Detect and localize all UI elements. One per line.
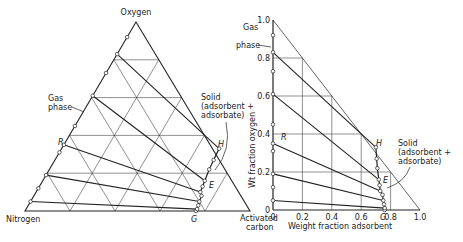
left-point-H: H — [218, 140, 224, 149]
solid-phase-point — [198, 200, 202, 204]
gas-phase-point — [271, 123, 275, 127]
solid-phase-point — [376, 166, 380, 170]
solid-phase-point — [375, 157, 379, 161]
grid-line-carbon — [205, 173, 227, 211]
gas-phase-point — [44, 173, 48, 177]
tie-line — [273, 52, 376, 147]
gas-phase-point — [271, 51, 275, 55]
solid-phase-point — [381, 193, 385, 197]
y-tick-label: 1.0 — [257, 16, 270, 25]
label-activated: Activated — [240, 214, 278, 223]
tie-line — [273, 201, 385, 209]
label-nitrogen: Nitrogen — [6, 215, 40, 224]
gas-phase-point — [37, 187, 41, 191]
right-solid-label-1: Solid — [398, 139, 418, 148]
y-tick-label: 0.8 — [257, 54, 270, 63]
gas-phase-point — [58, 151, 62, 155]
grid-line-carbon — [115, 98, 182, 211]
y-tick-label: 0.4 — [257, 130, 270, 139]
left-point-G: G — [191, 215, 197, 224]
right-point-R: R — [281, 133, 287, 142]
right-point-E: E — [383, 176, 389, 185]
solid-phase-point — [383, 206, 387, 210]
solid-phase-point — [199, 190, 203, 194]
gas-phase-point — [104, 71, 108, 75]
gas-phase-point — [115, 52, 119, 56]
y-axis-label: Wt fraction oxygen — [248, 112, 257, 188]
x-tick-label: 1.0 — [414, 213, 427, 222]
left-solid-label-3: adsorbate) — [201, 111, 245, 120]
gas-phase-point — [29, 200, 33, 204]
label-oxygen: Oxygen — [121, 8, 152, 17]
right-gas-label-1: Gas — [243, 23, 258, 32]
left-solid-label-2: (adsorbent + — [201, 102, 254, 111]
right-gas-label-2: phase — [236, 41, 260, 50]
y-tick-label: 0.2 — [257, 168, 270, 177]
gas-phase-point — [73, 124, 77, 128]
gas-phase-point — [271, 199, 275, 203]
figure: 00.20.40.60.81.000.20.40.60.81.0 Oxygen … — [0, 0, 463, 242]
gas-phase-point — [125, 35, 129, 39]
solid-phase-point — [201, 185, 205, 189]
gas-phase-point — [271, 142, 275, 146]
gas-phase-point — [271, 172, 275, 176]
xy-chart: 00.20.40.60.81.000.20.40.60.81.0 — [257, 16, 426, 222]
gas-phase-point — [271, 149, 275, 153]
solid-phase-point — [195, 207, 199, 211]
tie-line — [31, 202, 198, 210]
gas-phase-point — [271, 185, 275, 189]
left-solid-label-1: Solid — [201, 93, 221, 102]
left-gas-label-1: Gas — [48, 94, 63, 103]
gas-phase-point — [271, 70, 275, 74]
solid-phase-point — [381, 199, 385, 203]
right-solid-label-2: (adsorbent + — [398, 148, 451, 157]
gas-phase-point — [271, 92, 275, 96]
left-gas-label-2: phase — [48, 103, 72, 112]
solid-phase-point — [378, 184, 382, 188]
gas-phase-arrow — [72, 107, 84, 112]
tie-line — [64, 145, 201, 192]
diagonal-boundary — [273, 20, 420, 210]
right-point-H: H — [376, 139, 382, 148]
solid-phase-point — [203, 179, 207, 183]
x-axis-label: Weight fraction adsorbent — [288, 222, 392, 231]
left-point-E: E — [209, 181, 215, 190]
x-tick-label: 0.2 — [296, 213, 309, 222]
left-point-R: R — [58, 138, 64, 147]
tie-line — [273, 174, 383, 201]
gas-phase-point — [271, 33, 275, 37]
solid-phase-point — [212, 158, 216, 162]
x-tick-label: 0.6 — [355, 213, 368, 222]
solid-phase-point — [379, 189, 383, 193]
solid-phase-point — [382, 203, 386, 207]
solid-phase-point — [377, 178, 381, 182]
grid-line-nitrogen — [92, 98, 160, 211]
right-point-G: G — [380, 213, 386, 222]
solid-phase-point — [196, 204, 200, 208]
y-tick-label: 0.6 — [257, 92, 270, 101]
x-tick-label: 0.4 — [325, 213, 338, 222]
right-solid-label-3: adsorbate) — [398, 157, 442, 166]
label-carbon: carbon — [246, 223, 274, 232]
solid-phase-point — [207, 168, 211, 172]
solid-phase-point — [200, 194, 204, 198]
gas-phase-point — [91, 94, 95, 98]
